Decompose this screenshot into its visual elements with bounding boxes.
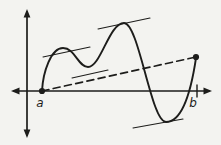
point-f-b bbox=[193, 54, 199, 60]
secant-line bbox=[42, 57, 196, 91]
label-b: b bbox=[189, 96, 197, 110]
function-curve bbox=[42, 23, 196, 122]
mvt-figure: a b bbox=[0, 0, 221, 145]
tangent-lines bbox=[43, 18, 183, 128]
label-a: a bbox=[36, 96, 43, 110]
y-axis bbox=[24, 9, 31, 138]
point-a bbox=[39, 88, 45, 94]
mvt-figure-container: a b bbox=[0, 0, 221, 145]
endpoint-dots bbox=[39, 54, 199, 94]
